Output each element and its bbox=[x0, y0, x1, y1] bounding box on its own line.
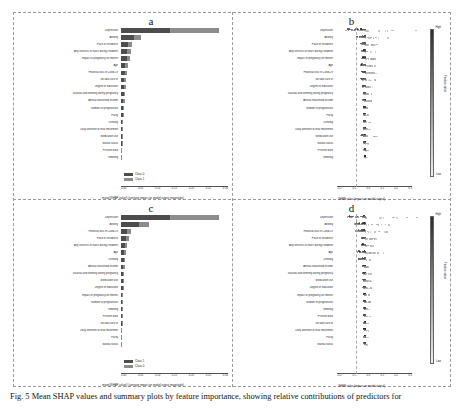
bar-feature-label: No take care of bbox=[14, 78, 121, 81]
bar-feature-label: Present work bbox=[14, 315, 121, 318]
bar-segment bbox=[122, 120, 123, 125]
bar-feature-label: Age bbox=[14, 64, 121, 67]
swarm-dot bbox=[381, 224, 383, 226]
swarm-dot bbox=[364, 56, 366, 58]
axis-tick-label: -0.1 bbox=[352, 187, 357, 195]
table-row: Age bbox=[14, 249, 232, 256]
axis-tick-label: 0.00 bbox=[121, 187, 126, 195]
swarm-dot bbox=[380, 217, 382, 219]
swarm-dot bbox=[396, 217, 398, 219]
swarm-dot bbox=[364, 71, 366, 73]
bar-feature-label: Medication use bbox=[14, 279, 121, 282]
table-row: Daily attention to fetal movement bbox=[14, 327, 232, 334]
bar-group bbox=[121, 99, 125, 104]
swarm-dot bbox=[367, 337, 369, 339]
bar-feature-label: Annual household income bbox=[14, 99, 121, 102]
list-item: Degree of education bbox=[233, 284, 450, 291]
bar-segment bbox=[127, 229, 131, 234]
list-item: Nausea and vomiting during pregnancy bbox=[233, 90, 450, 97]
swarm-feature-label: Place of residence bbox=[233, 237, 336, 240]
swarm-feature-label: Any services or hours during childbirth bbox=[233, 244, 336, 247]
list-item: Drinking bbox=[233, 256, 450, 263]
swarm-dot bbox=[372, 245, 374, 247]
swarm-dot bbox=[367, 245, 369, 247]
axis-tick-label: 0.10 bbox=[155, 374, 160, 382]
table-row: Annual household income bbox=[14, 263, 232, 270]
swarm-dot bbox=[364, 259, 366, 261]
bar-group bbox=[121, 328, 122, 333]
list-item: Drinking bbox=[233, 119, 450, 126]
swarm-feature-label: Age bbox=[233, 251, 336, 254]
list-item: Annual household income bbox=[233, 263, 450, 270]
swarm-dot bbox=[368, 302, 370, 304]
swarm-feature-label: Medication use bbox=[233, 135, 336, 138]
bar-segment bbox=[121, 222, 139, 227]
legend-label: Class 0 bbox=[135, 172, 144, 176]
swarm-dot bbox=[378, 30, 380, 32]
swarm-dot bbox=[367, 157, 369, 159]
swarm-dot bbox=[386, 231, 388, 233]
swarm-feature-label: Impact of pregnancy on mother bbox=[233, 57, 336, 60]
swarm-dot bbox=[372, 58, 374, 60]
bar-feature-label: Parity bbox=[14, 114, 121, 117]
bar-group bbox=[121, 335, 122, 340]
swarm-zero-line bbox=[356, 27, 357, 187]
swarm-dot bbox=[370, 100, 372, 102]
swarm-dot bbox=[361, 259, 363, 261]
swarm-dot bbox=[364, 322, 366, 324]
swarm-dot bbox=[375, 37, 377, 39]
list-item: No take care of bbox=[233, 76, 450, 83]
swarm-dot bbox=[368, 224, 370, 226]
bar-segment bbox=[123, 106, 124, 111]
swarm-dot bbox=[364, 244, 366, 246]
swarm-dot bbox=[374, 65, 376, 67]
bar-feature-label: Nausea and vomiting during pregnancy bbox=[14, 92, 121, 95]
table-row: Present work bbox=[14, 147, 232, 154]
swarm-dot bbox=[369, 316, 371, 318]
axis-tick-label: 0.0 bbox=[367, 187, 371, 195]
table-row: Impact of pregnancy on mother bbox=[14, 55, 232, 62]
swarm-dot bbox=[367, 136, 369, 138]
bar-segment bbox=[125, 71, 127, 76]
swarm-dot bbox=[365, 316, 367, 318]
bar-feature-label: Anxiety bbox=[14, 36, 121, 39]
bar-group bbox=[121, 141, 122, 146]
table-row: No take care of bbox=[14, 320, 232, 327]
table-row: Depression bbox=[14, 27, 232, 34]
bar-group bbox=[121, 258, 125, 263]
bar-group bbox=[121, 314, 122, 319]
bar-segment bbox=[124, 85, 126, 90]
table-row: Any services or hours during childbirth bbox=[14, 242, 232, 249]
list-item: Nausea and vomiting during pregnancy bbox=[233, 270, 450, 277]
swarm-dot bbox=[374, 58, 376, 60]
swarm-dot bbox=[366, 79, 368, 81]
bar-group bbox=[121, 42, 132, 47]
swarm-dot bbox=[375, 51, 377, 53]
panel-b-colorbar bbox=[430, 29, 435, 177]
bar-group bbox=[121, 134, 123, 139]
swarm-feature-label: Anxiety bbox=[233, 223, 336, 226]
bar-feature-label: Place of residence bbox=[14, 43, 121, 46]
legend-item: Class 1 bbox=[124, 359, 144, 363]
swarm-feature-label: Daily attention to fetal movement bbox=[233, 329, 336, 332]
swarm-dot bbox=[361, 58, 363, 60]
axis-tick-label: 0.20 bbox=[189, 187, 194, 195]
bar-group bbox=[121, 286, 124, 291]
swarm-dot bbox=[360, 30, 362, 32]
list-item: Degree of education bbox=[233, 83, 450, 90]
list-item: Number of pregnancies bbox=[233, 299, 450, 306]
list-item: Present work bbox=[233, 147, 450, 154]
swarm-dot bbox=[379, 217, 381, 219]
swarm-feature-label: Impact of pregnancy on mother bbox=[233, 294, 336, 297]
swarm-dot bbox=[364, 36, 366, 38]
swarm-dot bbox=[364, 301, 366, 303]
swarm-dot bbox=[415, 30, 417, 32]
bar-feature-label: Parity bbox=[14, 336, 121, 339]
list-item: Marital status bbox=[233, 140, 450, 147]
table-row: Parity bbox=[14, 112, 232, 119]
swarm-dot bbox=[394, 217, 396, 219]
swarm-dot bbox=[373, 37, 375, 39]
list-item: Marital status bbox=[233, 341, 450, 348]
panel-b-colorbar-low: Low bbox=[436, 173, 441, 176]
panel-b-xticks: -0.2-0.10.00.10.20.3 bbox=[337, 187, 412, 195]
